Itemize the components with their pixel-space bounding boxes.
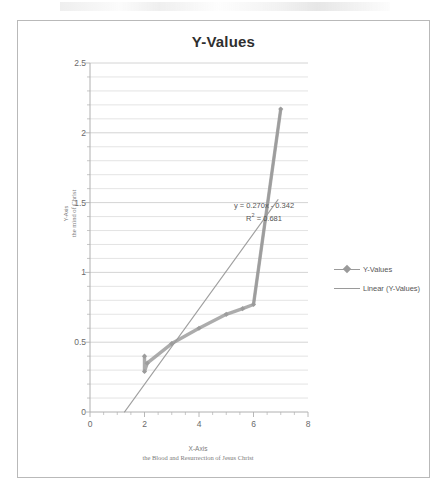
- chart-frame: Y-Values 00.511.522.5 02468 Y-Axis the m…: [17, 20, 430, 478]
- chart-legend: Y-Values Linear (Y-Values): [334, 264, 430, 302]
- y-axis-title-main: Y-Axis: [63, 179, 70, 249]
- x-axis-title-sub: the Blood and Resurrection of Jesus Chri…: [58, 454, 338, 463]
- x-tick-label: 8: [288, 419, 328, 429]
- axis-lines: [85, 63, 308, 417]
- x-tick-label: 2: [125, 419, 165, 429]
- y-tick-label: 2.5: [52, 58, 86, 68]
- x-axis-title: X-Axis the Blood and Resurrection of Jes…: [58, 445, 338, 463]
- plot-area: [90, 63, 308, 412]
- y-tick-label: 0: [52, 407, 86, 417]
- x-axis-title-main: X-Axis: [58, 445, 338, 454]
- legend-line-icon: [334, 283, 360, 293]
- y-axis-title-sub: the mind of Christ: [69, 179, 77, 249]
- y-tick-label: 0.5: [52, 337, 86, 347]
- trendline-equation-annotation: y = 0.270x - 0.342 R2 = 0.681: [210, 201, 318, 224]
- r-squared-number: = 0.681: [255, 213, 282, 222]
- legend-marker-icon: [334, 264, 360, 274]
- legend-label-linear: Linear (Y-Values): [360, 284, 420, 293]
- plot-svg: [90, 63, 308, 412]
- trendline-equation: y = 0.270x - 0.342: [210, 201, 318, 212]
- x-tick-label: 4: [179, 419, 219, 429]
- x-tick-label: 0: [70, 419, 110, 429]
- gridlines: [90, 63, 308, 398]
- r-squared-value: R2 = 0.681: [210, 212, 318, 224]
- legend-item-linear-trendline[interactable]: Linear (Y-Values): [334, 283, 430, 293]
- legend-item-y-values[interactable]: Y-Values: [334, 264, 430, 274]
- y-tick-label: 1: [52, 267, 86, 277]
- scan-bleed-artifact: [60, 2, 390, 11]
- y-axis-title: Y-Axis the mind of Christ: [63, 179, 78, 249]
- x-axis-tick-labels: 02468: [90, 419, 308, 433]
- trendline-series: [125, 200, 278, 412]
- x-tick-label: 6: [234, 419, 274, 429]
- chart-title: Y-Values: [18, 33, 429, 50]
- legend-label-y-values: Y-Values: [360, 265, 392, 274]
- y-tick-label: 2: [52, 128, 86, 138]
